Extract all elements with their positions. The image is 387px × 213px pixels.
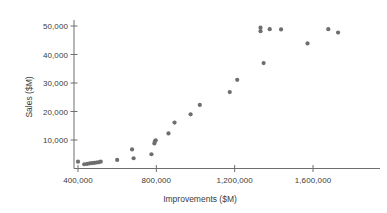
y-axis: [71, 20, 78, 169]
x-tick-label: 1,600,000: [295, 176, 332, 185]
y-tick-label: 40,000: [24, 50, 68, 59]
data-point: [279, 27, 283, 31]
x-axis-title: Improvements ($M): [163, 194, 237, 204]
data-point: [336, 30, 340, 34]
data-point: [258, 26, 262, 30]
data-point: [76, 160, 80, 164]
data-point: [154, 138, 158, 142]
y-tick-label: 10,000: [24, 136, 68, 145]
data-point: [115, 158, 119, 162]
data-point: [268, 27, 272, 31]
data-point: [198, 103, 202, 107]
data-point: [228, 90, 232, 94]
y-axis-title: Sales ($M): [24, 62, 34, 132]
scatter-plot-figure: 400,000800,0001,200,0001,600,000 10,0002…: [0, 0, 387, 213]
data-point: [189, 112, 193, 116]
y-tick-label: 50,000: [24, 22, 68, 31]
data-point: [149, 152, 153, 156]
data-point: [166, 131, 170, 135]
data-point: [235, 78, 239, 82]
data-point: [172, 121, 176, 125]
data-point: [305, 41, 309, 45]
x-tick-label: 1,200,000: [216, 176, 253, 185]
data-point: [262, 61, 266, 65]
plot-area: 400,000800,0001,200,0001,600,000 10,0002…: [0, 0, 387, 213]
x-tick-label: 400,000: [63, 176, 93, 185]
data-point: [99, 160, 103, 164]
data-point: [132, 156, 136, 160]
data-point: [326, 27, 330, 31]
x-axis: [74, 165, 380, 172]
data-points: [76, 26, 340, 167]
x-tick-label: 800,000: [142, 176, 172, 185]
data-point: [130, 147, 134, 151]
